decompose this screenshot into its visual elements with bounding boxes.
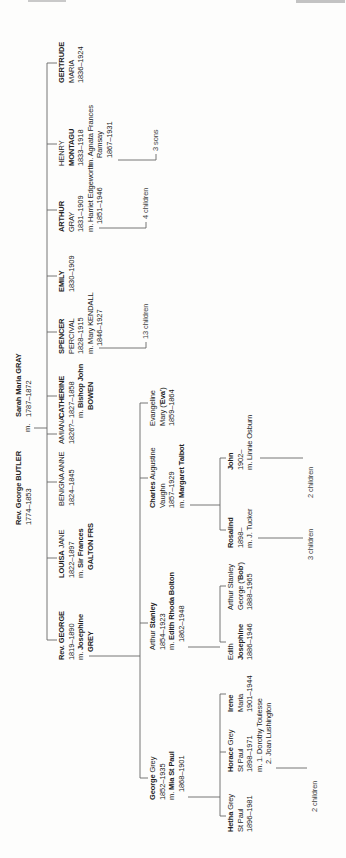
person-text-line: 1901–1944 bbox=[245, 676, 255, 712]
person-text: 1868–1901 bbox=[177, 756, 186, 792]
person-text-line: 1857–1929 bbox=[167, 444, 177, 508]
person-text: AMIANA bbox=[57, 416, 66, 444]
person-text: 1831–1909 bbox=[76, 196, 85, 232]
person-text-line: GREY bbox=[86, 611, 96, 660]
person-catherine: CATHERINE1827–1858m. Bishop JohnBOWEN bbox=[57, 364, 95, 418]
person-text: 1862–1948 bbox=[177, 606, 186, 642]
person-text: Grey bbox=[226, 730, 235, 748]
person-edithj: EdithJosephine1886–1946 bbox=[226, 624, 255, 660]
root-marriage-label: m. bbox=[23, 424, 33, 432]
person-text-line: George ('Bob') bbox=[236, 562, 246, 610]
person-name-bold: Stanley bbox=[148, 602, 157, 628]
person-text: HENRY bbox=[57, 140, 66, 166]
person-text: PERCIVAL bbox=[67, 318, 76, 354]
person-text: MARIA bbox=[67, 60, 76, 83]
person-text-line: 1868–1901 bbox=[177, 751, 187, 800]
person-amiana: AMIANA1826?– bbox=[57, 416, 76, 444]
person-text: 1854–1923 bbox=[158, 614, 167, 650]
person-text: 1824–1845 bbox=[67, 470, 76, 506]
person-text: m. Linnie Osburn bbox=[245, 415, 254, 470]
descendants-note-children2b: 2 children bbox=[310, 781, 320, 812]
descendants-note-children3: 3 children bbox=[306, 529, 316, 560]
person-text: 2. Joan Lushington bbox=[264, 703, 273, 764]
person-text: 1852–1935 bbox=[158, 764, 167, 800]
person-text-line: m. Mary KENDALL bbox=[86, 292, 96, 354]
person-name-bold: GREY bbox=[86, 631, 95, 652]
person-spencer: SPENCERPERCIVAL1828–1915m. Mary KENDALL1… bbox=[57, 292, 105, 354]
connector-lines bbox=[0, 0, 346, 858]
person-text-line: ARTHUR bbox=[57, 164, 67, 232]
person-text-line: MONTAGU bbox=[67, 105, 77, 166]
person-text-line: Edith bbox=[226, 624, 236, 660]
person-text-line: Rosalind bbox=[226, 509, 236, 548]
person-text-line: 1867–1931 bbox=[105, 105, 115, 166]
person-name-bold: Rev. George BUTLER bbox=[14, 451, 23, 525]
person-name-bold: Rosalind bbox=[226, 517, 235, 548]
person-name-bold: Bob bbox=[236, 566, 245, 580]
person-text: 1859–1864 bbox=[167, 390, 176, 426]
person-text: 1851–1946 bbox=[95, 188, 104, 224]
person-text: 1833–1918 bbox=[76, 130, 85, 166]
person-text-line: m. Sir Frances bbox=[76, 523, 86, 578]
person-butler: Rev. George BUTLER1774–1853 bbox=[14, 451, 33, 525]
person-text: 1857–1929 bbox=[167, 472, 176, 508]
person-name-bold: Mia St Paul bbox=[167, 751, 176, 790]
person-text: m. bbox=[76, 650, 85, 660]
person-text-line: 1822–1897 bbox=[67, 523, 77, 578]
person-text: Mary (' bbox=[158, 404, 167, 426]
person-name-bold: Sir Frances bbox=[76, 528, 85, 568]
descendants-note-children4: 4 children bbox=[141, 188, 151, 219]
person-name-bold: LOUISA bbox=[57, 550, 66, 578]
person-rosalind: Rosalind1898–m. J. Tucker bbox=[226, 509, 255, 548]
person-text: 1898– bbox=[236, 528, 245, 548]
person-name-bold: John bbox=[226, 453, 235, 470]
person-text-line: m. Edith Rhoda Bolton bbox=[167, 572, 177, 650]
person-text-line: GERTRUDE bbox=[57, 42, 67, 83]
person-text: Ramsay bbox=[95, 131, 104, 158]
person-text-line: m. Harriet Edgeworth bbox=[86, 164, 96, 232]
person-text: Arthur Stanley bbox=[226, 564, 235, 610]
person-text: m. bbox=[167, 790, 176, 800]
person-text-line: 1826?– bbox=[67, 416, 77, 444]
person-benigna: BENIGNA ANNE1824–1845 bbox=[57, 452, 76, 506]
person-text: 1830–1909 bbox=[67, 256, 76, 292]
person-text-line: 1859–1864 bbox=[167, 387, 177, 426]
person-name-bold: Sarah Maria GRAY bbox=[14, 353, 23, 417]
person-text: 1822–1897 bbox=[67, 542, 76, 578]
person-text: ') bbox=[158, 387, 167, 391]
person-henry: HENRYMONTAGU1833–1918m. Agnata FrancesRa… bbox=[57, 105, 115, 166]
person-text-line: 1824–1845 bbox=[67, 452, 77, 506]
person-text: 1902– bbox=[236, 450, 245, 470]
person-text: 1898–1971 bbox=[245, 736, 254, 772]
person-text-line: m. Linnie Osburn bbox=[245, 415, 255, 470]
person-text: m. 1. Dorothy Toulesse bbox=[255, 698, 264, 772]
person-text-line: EMILY bbox=[57, 256, 67, 292]
person-text-line: Arthur Stanley bbox=[148, 572, 158, 650]
person-text-line: Vaughn bbox=[158, 444, 168, 508]
person-text-line: m. Mia St Paul bbox=[167, 751, 177, 800]
person-text-line: 1862–1948 bbox=[177, 572, 187, 650]
person-text: George (' bbox=[236, 580, 245, 610]
person-text-line: St Paul bbox=[236, 794, 246, 832]
person-name-bold: Margaret Talbot bbox=[177, 444, 186, 498]
person-text-line: CATHERINE bbox=[57, 364, 67, 418]
person-text-line: 1896–1981 bbox=[245, 794, 255, 832]
person-name-bold: ARTHUR bbox=[57, 201, 66, 232]
gen3-to-gen4-connector bbox=[188, 458, 226, 816]
person-text-line: Mary ('Eva') bbox=[158, 387, 168, 426]
person-text-line: m. Agnata Frances bbox=[86, 105, 96, 166]
person-text-line: 1830–1909 bbox=[67, 256, 77, 292]
person-text: Maria bbox=[236, 694, 245, 712]
person-text-line: LOUISA JANE bbox=[57, 523, 67, 578]
person-text-line: GALTON FRS bbox=[86, 523, 96, 578]
descendants-note-children13: 13 children bbox=[141, 304, 151, 339]
descendants-note-sons3: 3 sons bbox=[151, 130, 161, 151]
person-text-line: Rev. George BUTLER bbox=[14, 451, 24, 525]
person-text-line: HENRY bbox=[57, 105, 67, 166]
person-text: Evangeline bbox=[148, 390, 157, 426]
person-name-bold: Josephine bbox=[236, 624, 245, 660]
person-charles: Charles AugustineVaughn1857–1929m. Marga… bbox=[148, 444, 186, 508]
person-name-bold: Irene bbox=[226, 695, 235, 712]
person-text-line: BOWEN bbox=[86, 364, 96, 418]
person-text-line: m. J. Tucker bbox=[245, 509, 255, 548]
